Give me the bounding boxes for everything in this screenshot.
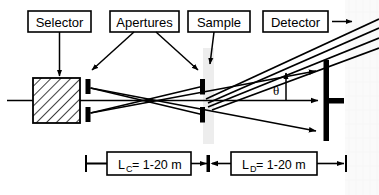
label-selector: Selector [28, 11, 91, 32]
label-detector-text: Detector [271, 15, 321, 30]
dimension-ld-value: = 1-20 m [256, 158, 306, 172]
label-selector-text: Selector [36, 15, 84, 30]
detector-plate [324, 60, 330, 141]
label-apertures: Apertures [110, 11, 179, 32]
dimension-lc-symbol: L [118, 158, 125, 172]
detector-stub [329, 98, 344, 104]
dimension-ld-symbol: L [242, 158, 249, 172]
label-apertures-text: Apertures [116, 15, 173, 30]
aperture-collimation-lower-jaw [86, 107, 91, 122]
label-sample-text: Sample [197, 15, 241, 30]
label-sample: Sample [188, 11, 250, 32]
dimension-lc-value: = 1-20 m [132, 158, 182, 172]
velocity-selector [33, 78, 80, 123]
theta-label: θ [273, 83, 279, 98]
sans-schematic-svg: Selector Apertures Sample Detector [0, 0, 379, 195]
watermark-grid [345, 0, 379, 195]
label-detector: Detector [263, 11, 328, 32]
sans-schematic-figure: Selector Apertures Sample Detector [0, 0, 379, 195]
aperture-collimation-upper-jaw [86, 79, 91, 94]
velocity-selector-body [33, 78, 80, 123]
